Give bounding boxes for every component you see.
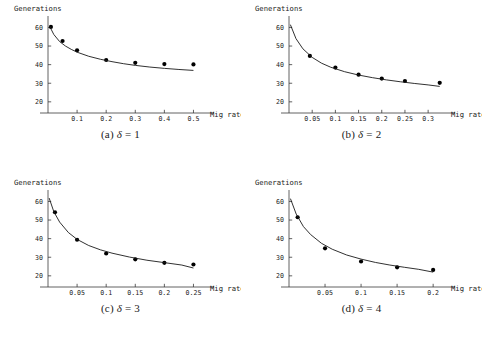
y-axis-label-a: Generations (14, 4, 62, 13)
y-tick-label-d-3: 50 (276, 216, 284, 224)
x-tick-label-c-0: 0.05 (69, 289, 85, 297)
y-tick-label-c-1: 30 (35, 254, 43, 262)
y-tick-label-a-2: 40 (35, 61, 43, 69)
data-point-d-1 (323, 246, 327, 250)
plot-area-c: Generations0.050.10.150.20.252030405060M… (0, 174, 241, 310)
x-tick-label-c-3: 0.2 (158, 289, 170, 297)
y-axis-label-b: Generations (255, 4, 303, 13)
caption-equals-c: = (125, 302, 131, 314)
caption-delta-symbol-b: δ (358, 128, 363, 140)
caption-equals-b: = (366, 128, 372, 140)
x-tick-label-b-1: 0.1 (329, 115, 341, 123)
subplot-c: Generations0.050.10.150.20.252030405060M… (0, 174, 241, 348)
x-tick-label-c-4: 0.25 (186, 289, 202, 297)
data-point-b-5 (438, 81, 442, 85)
y-tick-label-b-3: 50 (276, 42, 284, 50)
y-tick-label-d-0: 20 (276, 272, 284, 280)
caption-index-b: (b) (342, 128, 355, 140)
caption-value-b: 2 (376, 128, 382, 140)
subplot-caption-b: (b) δ = 2 (241, 128, 482, 140)
subplot-caption-d: (d) δ = 4 (241, 302, 482, 314)
x-tick-label-a-2: 0.3 (129, 115, 141, 123)
fitted-curve-a (49, 26, 193, 70)
x-tick-label-c-1: 0.1 (100, 289, 112, 297)
data-points-c (53, 210, 196, 266)
x-tick-label-a-1: 0.2 (100, 115, 112, 123)
y-axis-label-d: Generations (255, 178, 303, 187)
data-point-c-5 (191, 262, 195, 266)
x-tick-label-b-2: 0.15 (351, 115, 367, 123)
x-axis-label-c: Mig rate (210, 284, 241, 293)
y-tick-label-d-4: 60 (276, 198, 284, 206)
caption-equals-a: = (125, 128, 131, 140)
subplot-a: Generations0.10.20.30.40.52030405060Mig … (0, 0, 241, 174)
y-tick-label-c-2: 40 (35, 235, 43, 243)
y-tick-label-d-1: 30 (276, 254, 284, 262)
x-tick-label-a-0: 0.1 (71, 115, 83, 123)
plot-area-b: Generations0.050.10.150.20.250.320304050… (241, 0, 482, 136)
subplot-caption-a: (a) δ = 1 (0, 128, 241, 140)
x-tick-label-d-0: 0.05 (317, 289, 333, 297)
y-axis-label-c: Generations (14, 178, 62, 187)
x-tick-label-c-2: 0.15 (127, 289, 143, 297)
y-tick-label-a-4: 60 (35, 24, 43, 32)
fitted-curve-b (290, 25, 439, 87)
subplot-b: Generations0.050.10.150.20.250.320304050… (241, 0, 482, 174)
data-points-b (308, 54, 442, 85)
x-tick-label-b-0: 0.05 (304, 115, 320, 123)
plot-area-a: Generations0.10.20.30.40.52030405060Mig … (0, 0, 241, 136)
x-tick-label-a-3: 0.4 (158, 115, 170, 123)
x-tick-label-b-5: 0.3 (422, 115, 434, 123)
caption-delta-symbol-c: δ (117, 302, 122, 314)
y-tick-label-a-3: 50 (35, 42, 43, 50)
subplot-caption-c: (c) δ = 3 (0, 302, 241, 314)
data-point-d-4 (431, 268, 435, 272)
y-tick-label-a-1: 30 (35, 80, 43, 88)
data-points-a (49, 25, 196, 67)
data-points-d (296, 215, 436, 272)
y-tick-label-c-0: 20 (35, 272, 43, 280)
y-tick-label-b-2: 40 (276, 61, 284, 69)
caption-value-c: 3 (134, 302, 140, 314)
y-tick-label-b-4: 60 (276, 24, 284, 32)
data-point-a-4 (133, 61, 137, 65)
y-tick-label-b-1: 30 (276, 80, 284, 88)
x-axis-label-b: Mig rate (451, 110, 482, 119)
y-tick-label-d-2: 40 (276, 235, 284, 243)
x-tick-label-d-3: 0.2 (427, 289, 439, 297)
y-tick-label-a-0: 20 (35, 98, 43, 106)
caption-index-d: (d) (342, 302, 355, 314)
fitted-curve-c (49, 198, 193, 268)
figure-panel-grid: Generations0.10.20.30.40.52030405060Mig … (0, 0, 483, 348)
y-tick-label-c-4: 60 (35, 198, 43, 206)
plot-area-d: Generations0.050.10.150.22030405060Mig r… (241, 174, 482, 310)
data-point-d-2 (359, 259, 363, 263)
caption-value-d: 4 (376, 302, 382, 314)
caption-index-c: (c) (101, 302, 114, 314)
x-tick-label-b-4: 0.25 (397, 115, 413, 123)
data-point-a-5 (162, 62, 166, 66)
subplot-d: Generations0.050.10.150.22030405060Mig r… (241, 174, 482, 348)
x-tick-label-d-2: 0.15 (389, 289, 405, 297)
caption-index-a: (a) (101, 128, 114, 140)
x-axis-label-a: Mig rate (210, 110, 241, 119)
caption-value-a: 1 (134, 128, 140, 140)
y-tick-label-b-0: 20 (276, 98, 284, 106)
caption-delta-symbol-d: δ (358, 302, 363, 314)
x-axis-label-d: Mig rate (451, 284, 482, 293)
data-point-a-6 (191, 62, 195, 66)
x-tick-label-a-4: 0.5 (187, 115, 199, 123)
x-tick-label-b-3: 0.2 (376, 115, 388, 123)
x-tick-label-d-1: 0.1 (355, 289, 367, 297)
caption-equals-d: = (366, 302, 372, 314)
y-tick-label-c-3: 50 (35, 216, 43, 224)
caption-delta-symbol-a: δ (117, 128, 122, 140)
